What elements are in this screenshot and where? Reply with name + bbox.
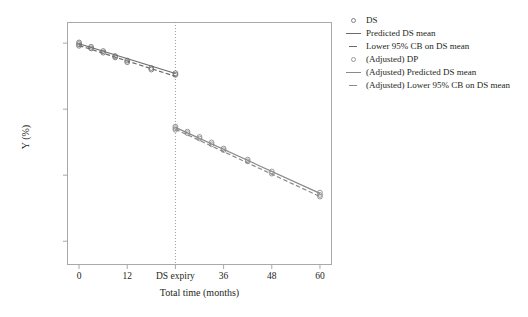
legend-row-3: (Adjusted) DP bbox=[346, 53, 526, 66]
legend-marker-glyph bbox=[349, 46, 357, 47]
legend-key-dashed-line-icon bbox=[346, 79, 364, 92]
legend-marker-glyph bbox=[351, 57, 356, 62]
legend-key-dashed-line-icon bbox=[346, 40, 364, 53]
y-axis-title: Y (%) bbox=[21, 107, 31, 167]
legend-label-0: DS bbox=[364, 14, 378, 27]
legend-row-2: Lower 95% CB on DS mean bbox=[346, 40, 526, 53]
legend-marker-glyph bbox=[349, 85, 357, 86]
x-tick-label-ds-expiry: DS expiry bbox=[156, 272, 195, 282]
legend-row-4: (Adjusted) Predicted DS mean bbox=[346, 66, 526, 79]
legend-key-circle-icon bbox=[346, 14, 364, 27]
legend-key-solid-line-icon bbox=[346, 27, 364, 40]
legend-marker-glyph bbox=[351, 18, 356, 23]
x-tick-label-48: 48 bbox=[267, 272, 277, 282]
legend-key-circle-icon bbox=[346, 53, 364, 66]
legend-marker-glyph bbox=[346, 33, 361, 34]
legend-row-1: Predicted DS mean bbox=[346, 27, 526, 40]
legend-label-1: Predicted DS mean bbox=[364, 27, 435, 40]
legend-label-4: (Adjusted) Predicted DS mean bbox=[364, 66, 476, 79]
x-axis-title: Total time (months) bbox=[67, 288, 332, 298]
x-tick-label-36: 36 bbox=[219, 272, 229, 282]
legend-label-3: (Adjusted) DP bbox=[364, 53, 418, 66]
x-tick-label-12: 12 bbox=[122, 272, 132, 282]
chart-legend: DSPredicted DS meanLower 95% CB on DS me… bbox=[346, 14, 526, 92]
legend-row-0: DS bbox=[346, 14, 526, 27]
legend-marker-glyph bbox=[346, 72, 361, 73]
legend-key-solid-line-icon bbox=[346, 66, 364, 79]
x-tick-label-60: 60 bbox=[315, 272, 325, 282]
legend-row-5: (Adjusted) Lower 95% CB on DS mean bbox=[346, 79, 526, 92]
chart-screenshot: 959085AC = 80 012DS expiry364860 Total t… bbox=[0, 0, 528, 317]
plot-area bbox=[67, 22, 332, 265]
x-tick-label-0: 0 bbox=[77, 272, 82, 282]
legend-label-5: (Adjusted) Lower 95% CB on DS mean bbox=[364, 79, 510, 92]
legend-label-2: Lower 95% CB on DS mean bbox=[364, 40, 469, 53]
